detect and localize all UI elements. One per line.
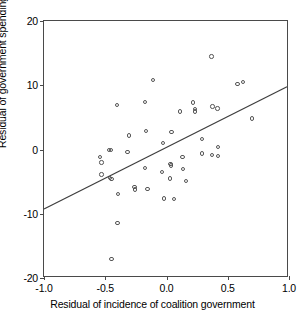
x-tick-mark	[44, 276, 45, 280]
data-point	[161, 141, 165, 145]
x-tick-label: 0.5	[221, 283, 235, 294]
data-point	[133, 187, 137, 191]
x-tick-mark	[228, 276, 229, 280]
data-point	[172, 197, 176, 201]
data-point	[144, 129, 148, 133]
data-point	[178, 109, 182, 113]
data-point	[235, 82, 239, 86]
data-point	[215, 106, 219, 110]
data-point	[168, 176, 172, 180]
x-tick-label: 1.0	[282, 283, 296, 294]
plot-area: 20 10 0 -10 -20 -1.0 -0.5 0.0 0.5 1.0	[43, 20, 288, 277]
data-point	[193, 109, 197, 113]
scatter-plot-figure: 20 10 0 -10 -20 -1.0 -0.5 0.0 0.5 1.0 Re…	[0, 0, 305, 322]
data-point	[200, 137, 204, 141]
data-point	[99, 160, 103, 164]
x-tick-mark	[167, 276, 168, 280]
data-point	[191, 100, 195, 104]
data-points-layer	[44, 21, 287, 276]
x-tick-mark	[105, 276, 106, 280]
data-point	[181, 167, 185, 171]
data-point	[99, 172, 103, 176]
data-point	[216, 154, 220, 158]
data-point	[116, 192, 120, 196]
data-point	[125, 150, 129, 154]
data-point	[98, 155, 102, 159]
data-point	[241, 80, 245, 84]
data-point	[109, 177, 113, 181]
data-point	[209, 54, 213, 58]
data-point	[160, 170, 164, 174]
y-axis-title: Residual of government spending	[0, 0, 8, 148]
y-tick-label: 20	[27, 16, 38, 27]
data-point	[115, 103, 119, 107]
data-point	[210, 153, 214, 157]
data-point	[127, 133, 131, 137]
data-point	[115, 221, 119, 225]
data-point	[143, 166, 147, 170]
data-point	[109, 148, 113, 152]
data-point	[169, 163, 173, 167]
x-axis-title: Residual of incidence of coalition gover…	[0, 299, 305, 310]
data-point	[145, 187, 149, 191]
x-tick-mark	[289, 276, 290, 280]
y-tick-label: 10	[27, 80, 38, 91]
y-tick-label: 0	[32, 144, 38, 155]
data-point	[216, 145, 220, 149]
data-point	[151, 78, 155, 82]
data-point	[210, 104, 214, 108]
data-point	[180, 155, 184, 159]
data-point	[109, 257, 113, 261]
data-point	[184, 179, 188, 183]
data-point	[162, 196, 166, 200]
x-tick-label: -0.5	[97, 283, 114, 294]
data-point	[143, 100, 147, 104]
data-point	[250, 116, 254, 120]
x-tick-label: -1.0	[35, 283, 52, 294]
y-tick-label: -10	[23, 209, 38, 220]
x-tick-label: 0.0	[160, 283, 174, 294]
data-point	[200, 151, 204, 155]
data-point	[169, 130, 173, 134]
